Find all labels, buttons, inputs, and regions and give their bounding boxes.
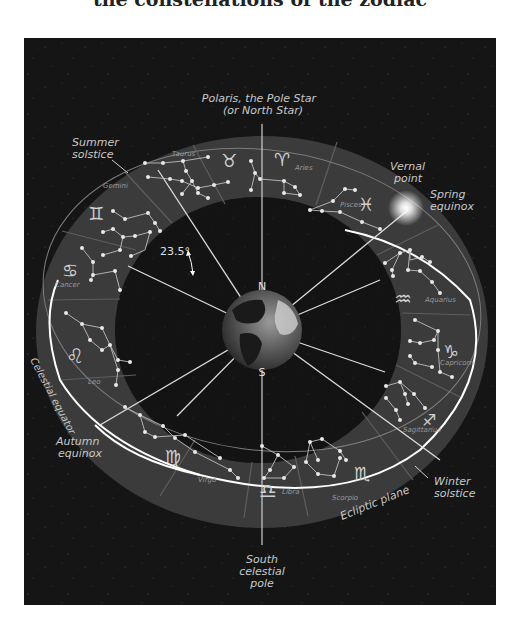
aquarius-symbol: ♒	[394, 287, 412, 311]
leo-symbol: ♌	[66, 344, 84, 368]
taurus-label: Taurus	[172, 150, 196, 158]
libra-label: Libra	[282, 488, 299, 496]
gemini-symbol: ♊	[88, 203, 104, 224]
polaris-label-line2: (or North Star)	[223, 104, 303, 117]
summer-solstice-line2: solstice	[72, 148, 114, 161]
virgo-label: Virgo	[198, 476, 216, 484]
tilt-angle-label: 23.5°	[160, 245, 190, 258]
south-pole-line3: pole	[249, 577, 274, 590]
cancer-symbol: ♋	[62, 260, 78, 281]
south-label: S	[259, 366, 266, 379]
vernal-point-glow	[388, 190, 424, 226]
pisces-label: Pisces	[340, 201, 362, 209]
north-label: N	[258, 280, 266, 293]
aries-label: Aries	[294, 164, 313, 172]
libra-symbol: ♎	[259, 479, 277, 503]
leo-label: Leo	[88, 378, 101, 386]
sagittarius-label: Sagittarius	[403, 426, 441, 434]
gemini-label: Gemini	[103, 182, 128, 190]
aquarius-label: Aquarius	[424, 296, 456, 304]
winter-solstice-line2: solstice	[434, 487, 476, 500]
virgo-symbol: ♍	[165, 446, 181, 467]
vernal-point-line2: point	[393, 172, 423, 185]
diagram-title: the constellations of the zodiac	[0, 0, 520, 10]
aries-symbol: ♈	[274, 149, 290, 170]
diagram-panel: ♉ ♈ ♓ ♒ ♑ ♐ ♏ ♎ ♍ ♌ ♋ ♊ Taurus Aries Pis…	[24, 38, 496, 605]
autumn-equinox-line2: equinox	[58, 447, 102, 460]
spring-equinox-line2: equinox	[430, 200, 474, 213]
zodiac-diagram: ♉ ♈ ♓ ♒ ♑ ♐ ♏ ♎ ♍ ♌ ♋ ♊ Taurus Aries Pis…	[24, 38, 496, 605]
capricorn-label: Capricorn	[440, 359, 474, 367]
scorpio-symbol: ♏	[354, 463, 370, 484]
scorpio-label: Scorpio	[332, 494, 358, 502]
taurus-symbol: ♉	[221, 150, 237, 171]
cancer-label: Cancer	[55, 281, 81, 289]
